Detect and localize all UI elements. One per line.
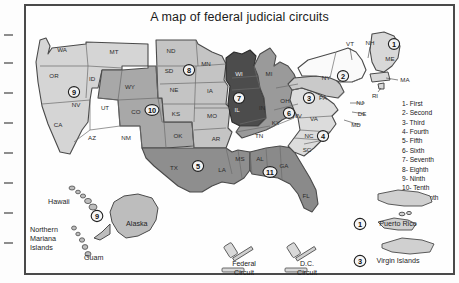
svg-text:9: 9 bbox=[72, 88, 76, 97]
special-court-label-federal: Federal bbox=[232, 260, 256, 267]
edge-tick bbox=[4, 92, 13, 94]
territory-label-hawaii: Hawaii bbox=[48, 197, 70, 206]
territory-label-guam: Guam bbox=[84, 253, 104, 262]
state-label-tx: TX bbox=[170, 164, 178, 171]
state-label-ut: UT bbox=[101, 104, 109, 111]
svg-text:11: 11 bbox=[266, 168, 274, 177]
state-label-ks: KS bbox=[172, 110, 180, 117]
svg-text:10: 10 bbox=[148, 106, 156, 115]
state-label-nj: NJ bbox=[356, 99, 364, 106]
state-label-il: IL bbox=[234, 106, 240, 113]
circuit-legend: 1- First2- Second3- Third4- Fourth5- Fif… bbox=[402, 100, 439, 201]
region-massachusetts bbox=[370, 72, 390, 82]
state-label-nc: NC bbox=[305, 132, 314, 139]
edge-tick bbox=[4, 212, 13, 214]
state-label-ri: RI bbox=[372, 92, 378, 99]
state-label-mi: MI bbox=[266, 70, 273, 77]
edge-tick bbox=[4, 34, 13, 36]
legend-item-6: 6- Sixth bbox=[402, 147, 425, 154]
circuit-marker-9: 9 bbox=[68, 87, 79, 98]
circuit-marker-1: 1 bbox=[388, 39, 399, 50]
state-label-sc: SC bbox=[303, 146, 312, 153]
alaska-shape bbox=[94, 194, 158, 240]
state-label-nv: NV bbox=[72, 101, 81, 108]
circuit-marker-5: 5 bbox=[192, 161, 203, 172]
territory-label-northern: Northern bbox=[30, 225, 58, 234]
svg-text:1: 1 bbox=[358, 220, 362, 229]
edge-tick bbox=[4, 182, 13, 184]
state-label-nh: NH bbox=[366, 39, 375, 46]
state-label-fl: FL bbox=[302, 192, 310, 199]
svg-text:2: 2 bbox=[341, 72, 345, 81]
state-label-vt: VT bbox=[346, 40, 354, 47]
legend-item-3: 3- Third bbox=[402, 119, 425, 126]
state-label-in: IN bbox=[259, 104, 265, 111]
inset-label-puerto-rico: Puerto Rico bbox=[379, 219, 417, 228]
state-label-tn: TN bbox=[255, 132, 263, 139]
state-label-mn: MN bbox=[201, 60, 211, 67]
svg-text:9: 9 bbox=[95, 212, 99, 221]
territory-label-mariana: Mariana bbox=[30, 234, 56, 243]
state-label-oh: OH bbox=[280, 97, 289, 104]
puerto-rico-shape bbox=[378, 190, 432, 206]
edge-tick bbox=[4, 122, 13, 124]
state-label-nd: ND bbox=[167, 47, 176, 54]
state-label-ar: AR bbox=[212, 135, 221, 142]
dc-circuit-gavel-icon bbox=[285, 242, 316, 272]
svg-text:3: 3 bbox=[358, 257, 362, 266]
state-label-wi: WI bbox=[235, 70, 243, 77]
federal-circuit-gavel-icon bbox=[222, 242, 253, 272]
circuit-marker-2: 2 bbox=[337, 71, 348, 82]
state-label-ne: NE bbox=[170, 86, 179, 93]
special-court-label-dc: D.C. bbox=[300, 260, 314, 267]
state-label-ny: NY bbox=[322, 74, 331, 81]
legend-item-7: 7- Seventh bbox=[402, 156, 434, 163]
state-label-la: LA bbox=[218, 166, 226, 173]
inset-label-virgin-islands: Virgin Islands bbox=[376, 256, 419, 265]
circuit-marker-6: 6 bbox=[283, 108, 294, 119]
state-label-ca: CA bbox=[54, 121, 63, 128]
state-label-or: OR bbox=[49, 72, 59, 79]
svg-text:5: 5 bbox=[196, 162, 200, 171]
inset-circuit-markers: 13 bbox=[354, 218, 366, 266]
legend-item-5: 5- Fifth bbox=[402, 137, 423, 144]
state-label-nm: NM bbox=[121, 134, 131, 141]
edge-tick bbox=[4, 242, 13, 244]
state-label-ok: OK bbox=[174, 132, 184, 139]
territory-label-alaska: Alaska bbox=[126, 219, 148, 228]
circuit-marker-11: 11 bbox=[263, 167, 277, 178]
svg-text:3: 3 bbox=[307, 94, 311, 103]
circuit-marker-7: 7 bbox=[233, 93, 244, 104]
svg-text:6: 6 bbox=[287, 109, 291, 118]
circuit-marker-3: 3 bbox=[303, 93, 314, 104]
territory-label-islands: Islands bbox=[30, 243, 53, 252]
edge-tick bbox=[4, 62, 13, 64]
mariana-guam-islands bbox=[72, 226, 91, 256]
inset-circuit-marker-3: 3 bbox=[354, 255, 366, 266]
svg-text:1: 1 bbox=[392, 40, 396, 49]
legend-item-8: 8- Eighth bbox=[402, 166, 429, 174]
circuit-regions bbox=[36, 32, 400, 212]
state-label-ia: IA bbox=[207, 87, 214, 94]
inset-circuit-marker-1: 1 bbox=[354, 218, 366, 229]
state-label-ga: GA bbox=[280, 162, 290, 169]
state-label-wa: WA bbox=[57, 46, 68, 53]
state-label-sd: SD bbox=[165, 67, 174, 74]
territory-circuit-marker-9: 9 bbox=[91, 210, 103, 221]
legend-item-4: 4- Fourth bbox=[402, 128, 429, 135]
virgin-islands-shape bbox=[378, 211, 434, 254]
legend-item-10: 10- Tenth bbox=[402, 184, 430, 191]
circuit-marker-4: 4 bbox=[317, 131, 328, 142]
page-title: A map of federal judicial circuits bbox=[24, 10, 455, 24]
territory-circuit-marker: 9 bbox=[91, 210, 103, 221]
judicial-circuits-map-figure: A map of federal judicial circuits bbox=[0, 0, 459, 283]
state-label-mt: MT bbox=[110, 48, 119, 55]
state-label-az: AZ bbox=[88, 134, 96, 141]
hawaii-islands bbox=[69, 186, 97, 210]
state-label-al: AL bbox=[256, 155, 264, 162]
state-label-id: ID bbox=[89, 75, 96, 82]
map-canvas: WAMTORIDWYNVUTCOCAAZNMNDSDMNNEIAKSMOWIIL… bbox=[26, 26, 457, 279]
legend-item-9: 9- Ninth bbox=[402, 175, 425, 182]
state-label-wy: WY bbox=[125, 83, 135, 90]
edge-tick bbox=[4, 152, 13, 154]
